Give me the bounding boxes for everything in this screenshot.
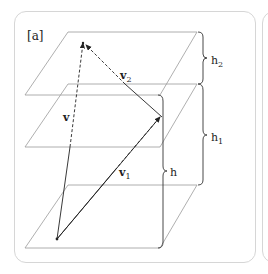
label-h2: h2 <box>211 54 223 69</box>
apex-point <box>82 42 84 44</box>
brace-h1 <box>198 84 207 185</box>
vector-v2-solid-part <box>125 84 162 117</box>
plane-top <box>25 32 197 95</box>
plane-middle <box>25 84 197 147</box>
label-h: h <box>170 166 177 179</box>
label-h1: h1 <box>211 131 223 146</box>
panel-label: [a] <box>27 29 44 43</box>
diagram-canvas: [a] v v1 v2 h2 h1 h <box>0 0 268 274</box>
label-v: v <box>62 111 70 124</box>
label-v2: v2 <box>119 69 132 84</box>
origin-point <box>56 238 59 241</box>
plane-bottom <box>25 185 197 248</box>
label-v1: v1 <box>118 166 131 181</box>
brace-h2 <box>198 32 207 84</box>
